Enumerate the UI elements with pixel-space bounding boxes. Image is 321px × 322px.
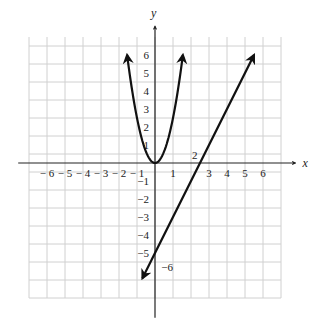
y-tick-label: −3 — [137, 211, 149, 223]
x-tick-label: − 4 — [76, 167, 91, 179]
coordinate-plane: xy − 6− 5− 4− 3− 2− 113456654321−1−2−3−4… — [0, 0, 321, 322]
y-tick-label: 6 — [144, 49, 150, 61]
line-curve — [142, 55, 254, 278]
y-tick-label: −4 — [137, 229, 149, 241]
y-axis-label: y — [150, 6, 157, 20]
x-tick-label: − 6 — [40, 167, 55, 179]
y-tick-label: 2 — [144, 121, 150, 133]
x-tick-label: 5 — [242, 167, 248, 179]
annotation-label: −6 — [161, 261, 173, 273]
y-tick-label: −5 — [137, 247, 149, 259]
y-tick-label: 4 — [144, 85, 150, 97]
x-tick-label: 4 — [224, 167, 230, 179]
x-axis-label: x — [302, 156, 309, 170]
annotation-label: 2 — [192, 149, 198, 161]
x-tick-label: 6 — [260, 167, 266, 179]
y-tick-label: 5 — [144, 67, 150, 79]
x-tick-label: − 2 — [112, 167, 126, 179]
y-tick-label: −2 — [137, 193, 149, 205]
annotations: 2−6 — [161, 149, 197, 274]
x-tick-label: − 5 — [58, 167, 73, 179]
y-tick-label: −1 — [137, 175, 149, 187]
x-tick-label: − 3 — [94, 167, 109, 179]
x-tick-label: 3 — [206, 167, 212, 179]
y-tick-label: 3 — [144, 103, 150, 115]
x-tick-label: 1 — [170, 167, 176, 179]
